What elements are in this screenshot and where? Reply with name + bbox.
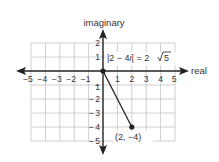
x-tick: −5 xyxy=(23,74,33,84)
y-axis-label: imaginary xyxy=(83,17,124,28)
svg-text:5: 5 xyxy=(164,53,169,63)
x-tick: −2 xyxy=(66,74,76,84)
x-tick: 2 xyxy=(129,74,134,84)
y-tick: 1 xyxy=(95,52,100,62)
x-tick: −4 xyxy=(38,74,48,84)
y-tick: 4 xyxy=(95,122,100,132)
y-tick: 5 xyxy=(95,136,100,146)
svg-text:|2 − 4i| = 2: |2 − 4i| = 2 xyxy=(107,53,149,63)
y-tick: − xyxy=(89,122,94,132)
x-tick: −3 xyxy=(52,74,62,84)
y-tick: 2 xyxy=(95,38,100,48)
y-tick: − xyxy=(89,136,94,146)
x-tick: 1 xyxy=(115,74,120,84)
y-tick-labels: 2 1 − 1 − 2 − 3 − 4 − 5 xyxy=(89,38,100,146)
x-tick: 5 xyxy=(172,74,177,84)
y-tick: 1 xyxy=(95,82,100,92)
x-tick: 3 xyxy=(144,74,149,84)
origin-point xyxy=(100,68,105,73)
x-axis-label: real xyxy=(191,65,207,76)
point-2-minus-4 xyxy=(129,124,134,129)
x-tick: 4 xyxy=(158,74,163,84)
y-tick: − xyxy=(89,108,94,118)
y-tick: 2 xyxy=(95,94,100,104)
point-label: (2, −4) xyxy=(113,131,153,143)
x-tick: −1 xyxy=(81,74,91,84)
complex-plane-diagram: imaginary real −5 −4 −3 −2 −1 1 2 3 4 5 … xyxy=(0,0,219,162)
modulus-annotation: |2 − 4i| = 2 5 xyxy=(106,52,182,65)
y-tick: 3 xyxy=(95,108,100,118)
svg-text:(2, −4): (2, −4) xyxy=(115,132,141,142)
y-tick: − xyxy=(89,94,94,104)
axes xyxy=(16,29,189,155)
